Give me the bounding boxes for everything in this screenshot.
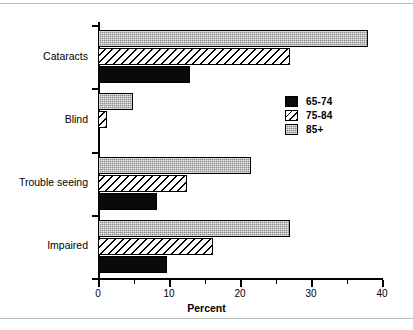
bar-cataracts-85-plus [98,30,368,47]
x-tick-label-30: 30 [305,288,316,299]
bar-trouble-seeing-75-84 [98,175,187,192]
y-category-label-trouble-seeing: Trouble seeing [19,176,88,188]
x-minor-tick-15 [205,280,206,284]
legend-label-65-74: 65-74 [306,96,333,107]
y-category-label-blind: Blind [65,113,88,125]
bar-trouble-seeing-65-74 [98,193,157,210]
x-tick-label-40: 40 [376,288,387,299]
bar-cataracts-75-84 [98,48,290,65]
bar-trouble-seeing-85-plus [98,157,251,174]
legend-item-75-84: 75-84 [285,110,333,121]
x-tick-20 [240,280,242,287]
plot-area [98,25,382,278]
x-tick-30 [311,280,313,287]
legend-swatch-icon-85-plus [285,124,298,135]
x-axis-title: Percent [0,302,413,314]
bar-impaired-85-plus [98,220,290,237]
x-tick-40 [382,280,384,287]
bar-chart-figure: CataractsBlindTrouble seeingImpaired 010… [0,0,413,330]
top-divider [0,3,413,4]
bar-impaired-65-74 [98,256,167,273]
bar-blind-75-84 [98,111,107,128]
x-tick-label-10: 10 [163,288,174,299]
bar-blind-85-plus [98,93,133,110]
legend-item-85-plus: 85+ [285,124,333,135]
bar-blind-65-74 [98,129,100,146]
x-tick-label-0: 0 [95,288,101,299]
x-tick-10 [169,280,171,287]
x-minor-tick-5 [134,280,135,284]
bottom-divider [0,318,413,319]
x-minor-tick-35 [347,280,348,284]
legend-label-85-plus: 85+ [306,124,324,135]
y-category-label-cataracts: Cataracts [43,50,88,62]
legend-swatch-icon-65-74 [285,96,298,107]
legend-label-75-84: 75-84 [306,110,333,121]
legend-item-65-74: 65-74 [285,96,333,107]
x-minor-tick-25 [276,280,277,284]
chart-legend: 65-74 75-84 85+ [285,96,333,135]
y-category-label-impaired: Impaired [47,239,88,251]
x-tick-label-20: 20 [234,288,245,299]
x-tick-0 [98,280,100,287]
bar-cataracts-65-74 [98,66,190,83]
bar-impaired-75-84 [98,238,213,255]
legend-swatch-icon-75-84 [285,110,298,121]
